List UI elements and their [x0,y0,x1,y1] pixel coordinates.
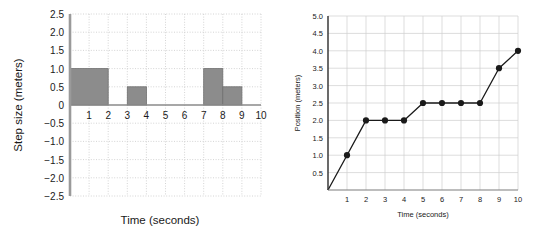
data-point-marker [401,117,407,123]
data-point-marker [458,100,464,106]
line-x-tick-label: 4 [402,195,406,204]
line-chart-svg: 5.0 4.5 4.0 3.5 3.0 2.5 2.0 1.5 1.0 0.5 … [270,0,540,235]
bar-y-tick-label: 0 [58,100,64,111]
bar-y-tick-label: −1.5 [44,155,64,166]
line-y-tick-label: 4.5 [313,29,323,38]
line-y-tick-label: 3.5 [313,64,323,73]
bar-y-tick-label: 0.5 [50,82,64,93]
line-y-axis-title: Position (meters) [293,74,302,131]
bar-x-tick-label: 2 [105,110,111,121]
line-x-tick-label: 6 [440,195,444,204]
bar-x-tick-label: 3 [125,110,131,121]
line-x-tick-label: 1 [345,195,349,204]
line-y-tick-labels: 5.0 4.5 4.0 3.5 3.0 2.5 2.0 1.5 1.0 0.5 [313,12,323,178]
line-x-tick-label: 2 [364,195,368,204]
bar-chart-svg: 2.5 2.0 1.5 1.0 0.5 0 −0.5 −1.0 −1.5 −2.… [0,0,270,235]
line-y-tick-label: 4.0 [313,47,323,56]
bar-y-tick-labels: 2.5 2.0 1.5 1.0 0.5 0 −0.5 −1.0 −1.5 −2.… [44,9,64,202]
line-y-tick-label: 2.0 [313,116,323,125]
bar-y-tick-label: −2.5 [44,191,64,202]
data-point-marker [382,117,388,123]
line-x-tick-label: 5 [421,195,425,204]
bar-x-tick-label: 6 [182,110,188,121]
line-y-tick-label: 1.0 [313,151,323,160]
data-point-marker [344,152,350,158]
bar-segment-4-5 [127,87,146,105]
line-x-tick-label: 9 [497,195,501,204]
bar-y-tick-label: 1.0 [50,64,64,75]
bar-x-tick-label: 8 [220,110,226,121]
bar-x-tick-label: 4 [144,110,150,121]
bar-segment-9-10 [223,87,242,105]
bar-x-tick-label: 10 [255,110,267,121]
data-point-marker [439,100,445,106]
step-size-bar-chart-panel: 2.5 2.0 1.5 1.0 0.5 0 −0.5 −1.0 −1.5 −2.… [0,0,270,235]
data-point-marker [515,48,521,54]
bar-y-axis-title: Step size (meters) [12,58,24,151]
two-panel-figure: 2.5 2.0 1.5 1.0 0.5 0 −0.5 −1.0 −1.5 −2.… [0,0,540,235]
line-x-tick-label: 7 [459,195,463,204]
line-x-tick-label: 3 [383,195,387,204]
bar-y-tick-label: −1.0 [44,136,64,147]
data-point-marker [363,117,369,123]
position-line-chart-panel: 5.0 4.5 4.0 3.5 3.0 2.5 2.0 1.5 1.0 0.5 … [270,0,540,235]
bar-segment-1-2 [70,69,108,105]
bar-segment-8-9 [204,69,223,105]
data-point-marker [477,100,483,106]
line-y-tick-label: 1.5 [313,134,323,143]
bar-x-axis-title: Time (seconds) [121,214,200,226]
bar-x-tick-label: 5 [163,110,169,121]
line-x-tick-label: 8 [478,195,482,204]
bar-y-tick-label: 2.0 [50,27,64,38]
bar-x-tick-label: 9 [239,110,245,121]
line-x-axis-title: Time (seconds) [397,210,449,219]
data-point-marker [420,100,426,106]
line-x-tick-label: 10 [514,195,522,204]
data-point-marker [496,65,502,71]
line-x-tick-labels: 1 2 3 4 5 6 7 8 9 10 [345,195,522,204]
bar-y-tick-label: 2.5 [50,9,64,20]
line-y-tick-label: 0.5 [313,169,323,178]
bar-x-tick-label: 7 [201,110,207,121]
bar-y-tick-label: −2.0 [44,173,64,184]
line-y-tick-label: 5.0 [313,12,323,21]
bar-y-tick-label: −0.5 [44,118,64,129]
bar-y-tick-label: 1.5 [50,45,64,56]
bar-x-tick-label: 1 [86,110,92,121]
line-y-tick-label: 3.0 [313,82,323,91]
line-y-tick-label: 2.5 [313,99,323,108]
